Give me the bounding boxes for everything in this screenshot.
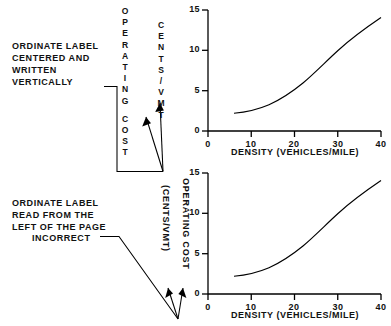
stack-letter: O [118, 125, 132, 136]
bottom-ytick-label: 15 [182, 167, 200, 177]
bottom-chart-curve [234, 181, 381, 277]
top-chart-curve [234, 18, 381, 114]
annotation-correct-note: ORDINATE LABEL CENTERED AND WRITTEN VERT… [12, 40, 99, 88]
stack-letter: E [118, 28, 132, 39]
stack-letter: O [118, 6, 132, 17]
stack-letter: A [118, 51, 132, 62]
top-ytick-label: 0 [182, 125, 200, 135]
bottom-chart-axes [202, 173, 381, 300]
stack-letter: V [154, 87, 168, 98]
stack-letter: S [154, 65, 168, 76]
stack-letter: G [118, 96, 132, 107]
stack-letter: I [118, 73, 132, 84]
stack-letter: / [154, 76, 168, 87]
incorrect-label: INCORRECT [32, 233, 90, 243]
stack-letter: T [118, 62, 132, 73]
stack-letter: N [118, 84, 132, 95]
bottom-arrowhead-cents-vmt [165, 288, 173, 298]
stack-letter: P [118, 17, 132, 28]
bottom-ytick-label: 5 [182, 248, 200, 258]
top-ytick-label: 5 [182, 85, 200, 95]
top-chart-axes [202, 10, 381, 137]
bottom-ytick-label: 10 [182, 207, 200, 217]
top-ytick-label: 10 [182, 44, 200, 54]
stack-letter: T [154, 54, 168, 65]
stack-letter: N [154, 42, 168, 53]
stack-letter: M [154, 98, 168, 109]
stack-letter: R [118, 40, 132, 51]
bottom-xaxis-title: DENSITY (VEHICLES/MILE) [205, 310, 385, 320]
bottom-ylabel-cents-vmt: (CENTS/VMT) [161, 185, 171, 252]
stack-letter: E [154, 31, 168, 42]
top-ylabel-cents-vmt: C E N T S / V M T [154, 20, 168, 121]
stack-letter: C [118, 114, 132, 125]
top-ylabel-operating-cost: O P E R A T I N G C O S T [118, 6, 132, 158]
stack-letter: C [154, 20, 168, 31]
top-ytick-label: 15 [182, 4, 200, 14]
stack-letter: S [118, 136, 132, 147]
stack-letter: T [154, 110, 168, 121]
bottom-ytick-label: 0 [182, 288, 200, 298]
top-xaxis-title: DENSITY (VEHICLES/MILE) [205, 147, 385, 157]
annotation-incorrect-note: ORDINATE LABEL READ FROM THE LEFT OF THE… [12, 197, 106, 233]
stack-letter: T [118, 147, 132, 158]
top-arrowhead-cost [142, 117, 151, 127]
stack-letter-space [118, 107, 132, 114]
